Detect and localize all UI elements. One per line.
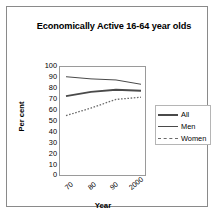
legend-swatch-all bbox=[158, 109, 178, 119]
y-tick-label: 100 bbox=[31, 62, 57, 69]
y-axis-title: Per cent bbox=[17, 94, 26, 140]
y-tick-label: 80 bbox=[31, 84, 57, 91]
y-tick-label: 40 bbox=[31, 128, 57, 135]
y-tick-label: 90 bbox=[31, 73, 57, 80]
legend-item-all: All bbox=[156, 108, 210, 120]
x-axis-title: Year bbox=[59, 201, 147, 210]
chart-legend: All Men Women bbox=[155, 105, 211, 145]
y-tick-label: 50 bbox=[31, 117, 57, 124]
legend-item-women: Women bbox=[156, 132, 210, 144]
y-tick-label: 0 bbox=[31, 171, 57, 178]
y-tick-label: 70 bbox=[31, 95, 57, 102]
series-line-all bbox=[66, 90, 141, 96]
y-tick-label: 20 bbox=[31, 150, 57, 157]
legend-label: Men bbox=[181, 122, 195, 131]
y-axis-tick-labels: 100 90 80 70 60 50 40 30 20 10 0 bbox=[31, 7, 57, 214]
plot-lines bbox=[60, 67, 145, 175]
chart-outer-frame: Economically Active 16-64 year olds 100 … bbox=[6, 6, 208, 207]
x-tick-label: 80 bbox=[86, 180, 98, 192]
legend-label: All bbox=[181, 110, 189, 119]
y-tick-label: 10 bbox=[31, 161, 57, 168]
x-tick-label: 70 bbox=[63, 180, 75, 192]
series-line-women bbox=[66, 97, 141, 115]
legend-label: Women bbox=[181, 134, 206, 143]
legend-item-men: Men bbox=[156, 120, 210, 132]
x-tick-label: 2000 bbox=[127, 175, 145, 192]
plot-area bbox=[59, 66, 146, 176]
legend-swatch-men bbox=[158, 121, 178, 131]
y-tick-label: 30 bbox=[31, 139, 57, 146]
legend-swatch-women bbox=[158, 133, 178, 143]
series-line-men bbox=[66, 77, 141, 85]
y-tick-label: 60 bbox=[31, 106, 57, 113]
x-tick-label: 90 bbox=[108, 180, 120, 192]
x-axis-tick-labels: 70 80 90 2000 bbox=[59, 177, 147, 203]
